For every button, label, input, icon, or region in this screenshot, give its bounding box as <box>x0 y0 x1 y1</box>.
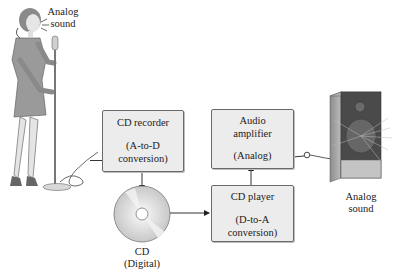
audio-amplifier-box: Audio amplifier (Analog) <box>211 109 294 169</box>
mic-cable-line <box>90 160 102 161</box>
speaker-illustration <box>330 92 392 182</box>
label-line: Analog <box>38 6 88 18</box>
cd-disc-icon <box>114 186 170 242</box>
label-line: CD <box>112 246 172 258</box>
diagram-canvas <box>0 0 402 279</box>
cd-player-detail-2: conversion) <box>212 226 293 239</box>
cd-recorder-detail-2: conversion) <box>103 152 183 165</box>
microphone-stand <box>43 36 98 191</box>
label-line: Analog <box>336 191 386 203</box>
label-line: sound <box>38 18 88 30</box>
speaker-analog-sound-label: Analog sound <box>336 191 386 215</box>
cd-player-detail-1: (D-to-A <box>212 213 293 226</box>
cd-recorder-title: CD recorder <box>103 116 183 129</box>
cd-digital-label: CD (Digital) <box>112 246 172 270</box>
amplifier-title-1: Audio <box>212 114 293 127</box>
singer-illustration <box>10 8 54 186</box>
amplifier-detail: (Analog) <box>212 149 293 162</box>
label-line: (Digital) <box>112 258 172 270</box>
cd-player-title: CD player <box>212 190 293 203</box>
cd-recorder-detail-1: (A-to-D <box>103 139 183 152</box>
amplifier-title-2: amplifier <box>212 127 293 140</box>
cd-recorder-box: CD recorder (A-to-D conversion) <box>102 110 184 172</box>
cd-player-box: CD player (D-to-A conversion) <box>211 185 294 242</box>
label-line: sound <box>336 203 386 215</box>
singer-analog-sound-label: Analog sound <box>38 6 88 30</box>
